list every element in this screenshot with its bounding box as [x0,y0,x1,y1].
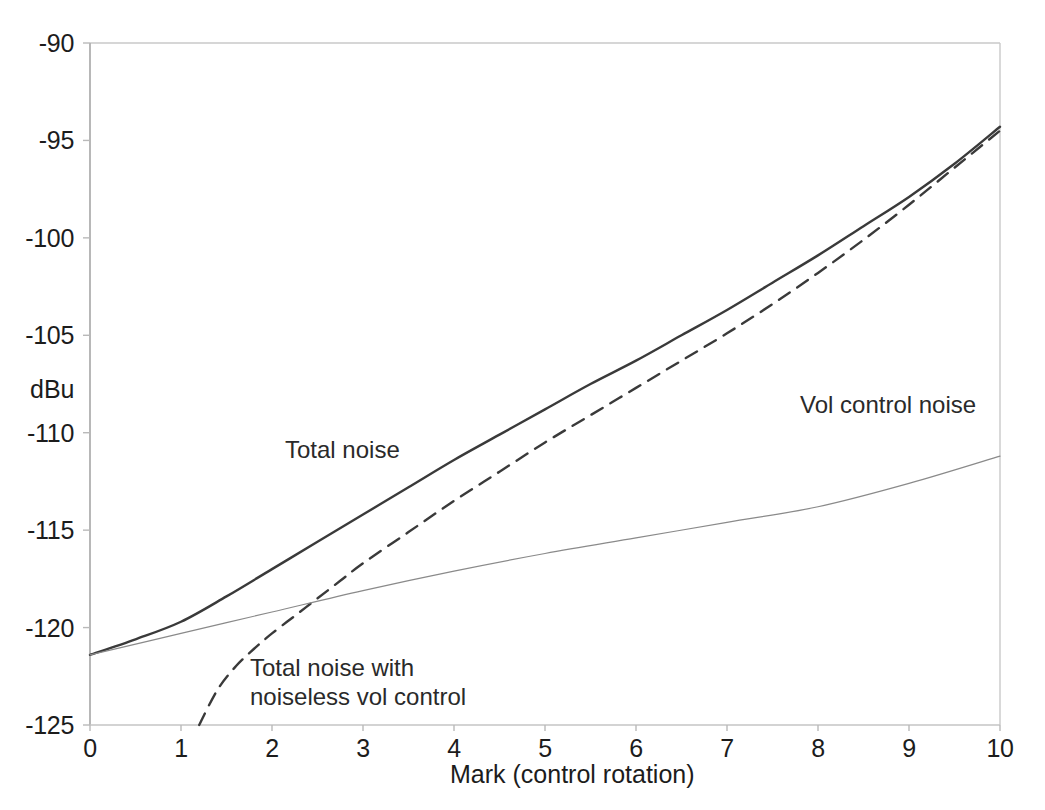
y-tick-label: -100 [0,223,74,252]
series-label-noiseless-line1: Total noise with [250,653,466,682]
series-label-total-noise: Total noise [285,435,400,464]
y-tick-label: -95 [0,126,74,155]
chart-figure: -90-95-100-105-110-115-120-125 012345678… [0,0,1045,810]
y-tick-label: -125 [0,711,74,740]
series-label-noiseless-vol-control: Total noise with noiseless vol control [250,653,466,712]
y-tick-label: -110 [0,418,74,447]
x-tick-label: 5 [538,734,552,763]
y-axis-title: dBu [30,375,74,404]
x-tick-label: 0 [83,734,97,763]
x-tick-label: 9 [902,734,916,763]
x-tick-label: 3 [356,734,370,763]
x-tick-label: 1 [174,734,188,763]
series-label-noiseless-line2: noiseless vol control [250,682,466,711]
x-axis-title: Mark (control rotation) [450,760,695,789]
y-tick-label: -90 [0,29,74,58]
series-label-vol-control-noise: Vol control noise [800,390,976,419]
axis-tick-marks [83,43,1000,731]
x-tick-label: 7 [720,734,734,763]
y-tick-label: -115 [0,516,74,545]
x-tick-label: 4 [447,734,461,763]
series-curve-1 [199,131,1000,725]
y-tick-label: -105 [0,321,74,350]
y-tick-label: -120 [0,613,74,642]
series-curve-2 [90,456,1000,655]
x-tick-label: 8 [811,734,825,763]
series-layer [90,127,1000,725]
x-tick-label: 2 [265,734,279,763]
x-tick-label: 6 [629,734,643,763]
x-tick-label: 10 [986,734,1013,763]
